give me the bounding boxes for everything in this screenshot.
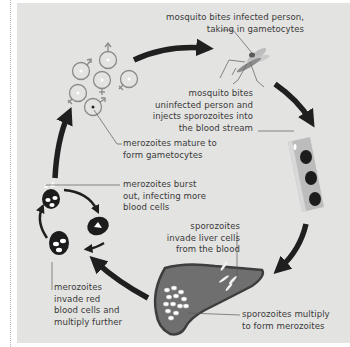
- arrow-icon: [64, 190, 97, 210]
- red-blood-cell-icon: [49, 231, 69, 255]
- label-line: mosquito bites infected person,: [166, 12, 304, 24]
- arrow-icon: [55, 115, 68, 178]
- label-line: taking in gametocytes: [166, 24, 304, 36]
- label-line: the blood stream: [153, 123, 253, 135]
- label-line: invade red: [54, 294, 122, 306]
- mosquito-icon: [220, 46, 270, 87]
- label-line: merozoites burst: [123, 179, 206, 191]
- red-blood-cell-cycle: [40, 181, 112, 255]
- label-line: merozoites mature to: [123, 138, 217, 150]
- label-mosquito-infected: mosquito bites infected person, taking i…: [166, 12, 304, 35]
- label-line: to form merozoites: [242, 321, 330, 333]
- label-line: multiply further: [54, 317, 122, 329]
- label-burst: merozoites burst out, infecting more blo…: [123, 179, 206, 214]
- label-line: out, infecting more: [123, 191, 206, 203]
- label-gametocytes: merozoites mature to form gametocytes: [123, 138, 217, 161]
- label-line: blood cells and: [54, 305, 122, 317]
- blood-vessel-icon: [288, 137, 324, 212]
- label-multiply: sporozoites multiply to form merozoites: [242, 309, 330, 332]
- label-line: injects sporozoites into: [153, 111, 253, 123]
- arrow-icon: [280, 224, 306, 268]
- label-line: invade liver cells: [167, 233, 240, 245]
- arrow-icon: [134, 48, 205, 61]
- red-blood-cell-icon: [85, 214, 112, 238]
- label-line: sporozoites: [167, 221, 240, 233]
- label-line: mosquito bites: [153, 88, 253, 100]
- gametocyte-icon: [68, 43, 138, 116]
- label-invade-red: merozoites invade red blood cells and mu…: [54, 282, 122, 328]
- arrow-icon: [40, 208, 47, 238]
- label-line: merozoites: [54, 282, 122, 294]
- life-cycle-diagram: [0, 0, 350, 347]
- label-line: uninfected person and: [153, 100, 253, 112]
- arrow-icon: [275, 84, 310, 120]
- label-line: from the blood: [167, 244, 240, 256]
- label-mosquito-uninfected: mosquito bites uninfected person and inj…: [153, 88, 253, 134]
- label-liver-invade: sporozoites invade liver cells from the …: [167, 221, 240, 256]
- label-line: sporozoites multiply: [242, 309, 330, 321]
- label-line: form gametocytes: [123, 150, 217, 162]
- label-line: blood cells: [123, 202, 206, 214]
- arrow-icon: [88, 243, 104, 249]
